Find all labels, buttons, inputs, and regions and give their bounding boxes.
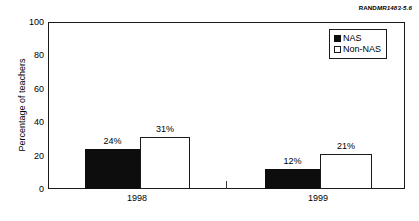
bar-value-label: 21% <box>337 141 355 151</box>
y-axis-tick-labels: 020406080100 <box>14 0 44 221</box>
bar-value-label: 31% <box>156 124 174 134</box>
x-axis-group-divider-tick <box>226 181 227 189</box>
y-axis-tick-label: 20 <box>14 151 44 161</box>
source-credit-brand: RAND <box>359 4 377 11</box>
legend-item-non-nas[interactable]: Non-NAS <box>334 44 381 55</box>
bar-non-nas-1999 <box>320 154 372 189</box>
y-axis-tick-label: 40 <box>14 117 44 127</box>
x-axis-label-1998: 1998 <box>127 193 147 203</box>
legend-item-nas[interactable]: NAS <box>334 33 381 44</box>
y-axis-tick-label: 0 <box>14 184 44 194</box>
y-axis-tick-label: 100 <box>14 17 44 27</box>
bar-value-label: 24% <box>103 136 121 146</box>
bar-nas-1998 <box>85 149 140 189</box>
bar-nas-1999 <box>265 169 320 189</box>
source-credit-code: MR1483-5.6 <box>377 4 412 11</box>
source-credit: RANDMR1483-5.6 <box>359 4 412 11</box>
legend-swatch-icon <box>334 35 341 42</box>
legend-label: NAS <box>343 33 362 44</box>
y-axis-tick-label: 60 <box>14 84 44 94</box>
legend-swatch-icon <box>334 46 341 53</box>
bar-value-label: 12% <box>283 156 301 166</box>
chart-legend: NASNon-NAS <box>329 29 387 59</box>
bar-non-nas-1998 <box>140 137 190 189</box>
bar-chart-figure: RANDMR1483-5.6 Percentage of teachers 02… <box>0 0 419 221</box>
x-axis-label-1999: 1999 <box>308 193 328 203</box>
y-axis-tick-label: 80 <box>14 50 44 60</box>
legend-label: Non-NAS <box>343 44 381 55</box>
